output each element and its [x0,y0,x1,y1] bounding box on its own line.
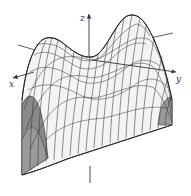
y-axis-label: y [175,74,182,84]
z-axis-label: z [79,13,85,23]
x-axis-label: x [9,79,14,89]
surface-plot-svg: z x y [0,0,191,196]
surface-plot-figure: z x y [0,0,191,196]
surface-mesh [22,15,172,175]
